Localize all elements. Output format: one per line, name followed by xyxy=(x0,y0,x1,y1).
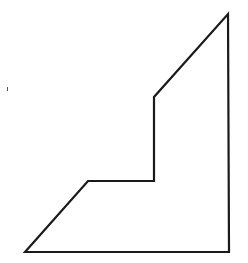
stray-mark xyxy=(7,87,8,91)
stepped-polygon-outline xyxy=(25,14,229,252)
polygon-diagram xyxy=(0,0,248,263)
diagram-canvas xyxy=(0,0,248,263)
